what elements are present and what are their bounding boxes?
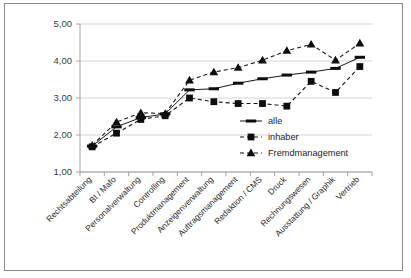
marker-dash — [184, 88, 194, 91]
chart-legend: alleinhaberFremdmanagement — [240, 116, 349, 158]
marker-square — [186, 95, 193, 102]
marker-square — [332, 89, 339, 96]
marker-dash — [282, 74, 292, 77]
marker-triangle — [136, 108, 145, 116]
marker-triangle — [355, 39, 364, 47]
x-axis-tick-label: Vertrieb — [334, 174, 362, 202]
x-axis-tick-label: Rechtsabteilung — [44, 174, 94, 224]
series-lines — [92, 43, 360, 147]
marker-dash — [209, 87, 219, 90]
marker-dash — [355, 56, 365, 59]
y-axis-tick-label: 1,00 — [54, 166, 73, 177]
marker-square — [137, 116, 144, 123]
marker-triangle — [247, 149, 256, 157]
x-axis-labels: RechtsabteilungBI / MafoPersonalverwaltu… — [44, 174, 361, 239]
marker-square — [283, 103, 290, 110]
marker-dash — [111, 125, 121, 128]
marker-triangle — [258, 56, 267, 64]
legend-label-inhaber: inhaber — [268, 132, 299, 142]
marker-square — [356, 63, 363, 70]
y-axis-tick-label: 4,00 — [54, 55, 73, 66]
line-chart: 1,002,003,004,005,00 RechtsabteilungBI /… — [0, 0, 411, 278]
series-markers — [87, 39, 365, 150]
marker-square — [248, 134, 255, 141]
marker-square — [235, 100, 242, 107]
y-axis-tick-label: 5,00 — [54, 18, 73, 29]
marker-dash — [246, 120, 256, 123]
y-axis-tick-label: 3,00 — [54, 92, 73, 103]
marker-triangle — [331, 56, 340, 64]
marker-square — [308, 78, 315, 85]
marker-dash — [257, 77, 267, 80]
marker-triangle — [282, 46, 291, 54]
marker-square — [113, 130, 120, 137]
y-axis-ticks — [76, 24, 80, 172]
marker-dash — [233, 82, 243, 85]
y-axis-tick-label: 2,00 — [54, 129, 73, 140]
marker-square — [259, 100, 266, 107]
legend-label-alle: alle — [268, 116, 282, 126]
legend-label-fremdmanagement: Fremdmanagement — [268, 148, 349, 158]
marker-square — [210, 98, 217, 105]
y-axis-labels: 1,002,003,004,005,00 — [54, 18, 73, 177]
marker-triangle — [307, 40, 316, 48]
marker-dash — [306, 71, 316, 74]
marker-dash — [330, 67, 340, 70]
series-line-fremdmanagement — [92, 43, 360, 145]
series-line-alle — [92, 57, 360, 146]
